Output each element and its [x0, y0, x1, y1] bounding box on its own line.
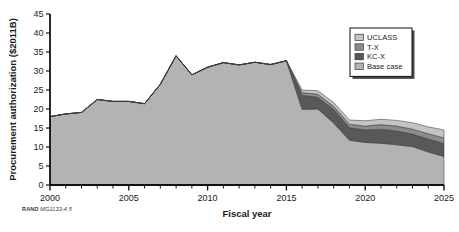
y-tick-label: 25 — [33, 85, 43, 95]
y-tick-label: 15 — [33, 123, 43, 133]
y-tick-label: 45 — [33, 9, 43, 19]
y-tick-label: 10 — [33, 142, 43, 152]
legend-label-uclass: UCLASS — [367, 33, 397, 42]
figure-credit: RAND MG1133-4.5 — [22, 206, 72, 212]
legend-label-t-x: T-X — [367, 43, 379, 52]
legend-swatch-uclass — [355, 34, 363, 40]
credit-reference: MG1133-4.5 — [40, 206, 72, 212]
x-axis-title: Fiscal year — [222, 208, 271, 219]
figure-container: 0510152025303540452000200520102015202020… — [0, 0, 459, 232]
y-axis-title: Procurement authorization ($2011B) — [7, 18, 18, 181]
x-tick-label: 2015 — [276, 193, 296, 203]
y-tick-label: 0 — [38, 180, 43, 190]
legend-label-kc-x: KC-X — [367, 52, 385, 61]
legend-swatch-base-case — [355, 63, 363, 69]
y-tick-label: 40 — [33, 28, 43, 38]
credit-brand: RAND — [22, 206, 39, 212]
legend-swatch-t-x — [355, 44, 363, 50]
y-tick-label: 5 — [38, 161, 43, 171]
x-tick-label: 2020 — [355, 193, 375, 203]
y-tick-label: 30 — [33, 66, 43, 76]
area-chart: 0510152025303540452000200520102015202020… — [0, 0, 459, 232]
x-tick-label: 2025 — [434, 193, 454, 203]
x-tick-label: 2000 — [40, 193, 60, 203]
legend-label-base-case: Base case — [367, 62, 402, 71]
legend: UCLASST-XKC-XBase case — [350, 28, 415, 79]
x-tick-label: 2010 — [198, 193, 218, 203]
y-tick-label: 20 — [33, 104, 43, 114]
legend-swatch-kc-x — [355, 53, 363, 59]
x-tick-label: 2005 — [119, 193, 139, 203]
y-tick-label: 35 — [33, 47, 43, 57]
